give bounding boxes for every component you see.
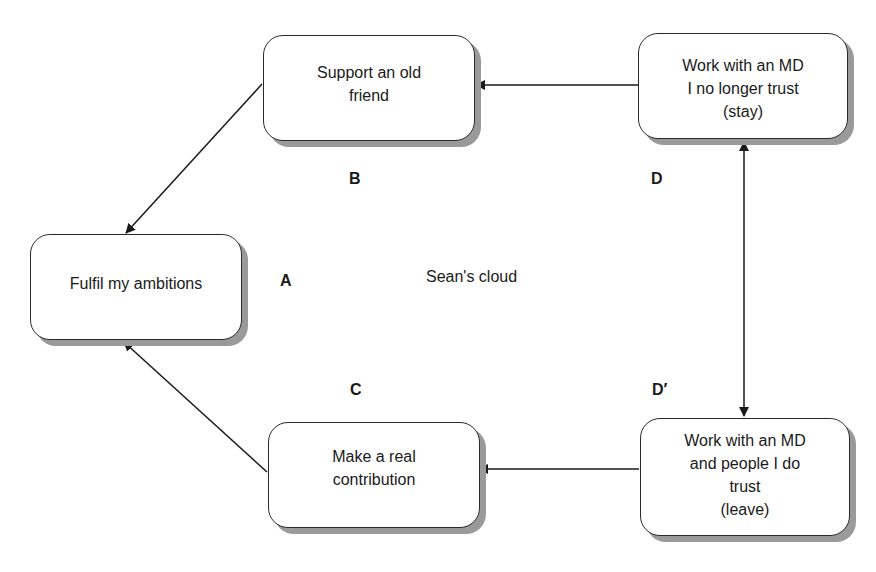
diagram-title: Sean's cloud <box>426 268 517 286</box>
node-b-support-friend: Support an old friend <box>263 35 475 141</box>
node-a-text: Fulfil my ambitions <box>70 272 202 339</box>
label-b: B <box>349 170 361 188</box>
arrow-c-to-a <box>124 342 267 472</box>
arrow-b-to-a <box>126 84 262 233</box>
label-d: D <box>651 170 663 188</box>
label-d-prime: D′ <box>652 381 667 399</box>
node-dprime-text: Work with an MD and people I do trust (l… <box>684 429 806 535</box>
node-dprime-leave: Work with an MD and people I do trust (l… <box>640 418 850 536</box>
node-d-text: Work with an MD I no longer trust (stay) <box>682 54 804 138</box>
node-c-real-contribution: Make a real contribution <box>268 422 480 528</box>
label-a: A <box>280 272 292 290</box>
node-d-stay: Work with an MD I no longer trust (stay) <box>638 33 848 139</box>
node-b-text: Support an old friend <box>317 61 421 140</box>
node-a-fulfil-ambitions: Fulfil my ambitions <box>30 234 242 340</box>
node-c-text: Make a real contribution <box>332 445 416 527</box>
label-c: C <box>350 381 362 399</box>
